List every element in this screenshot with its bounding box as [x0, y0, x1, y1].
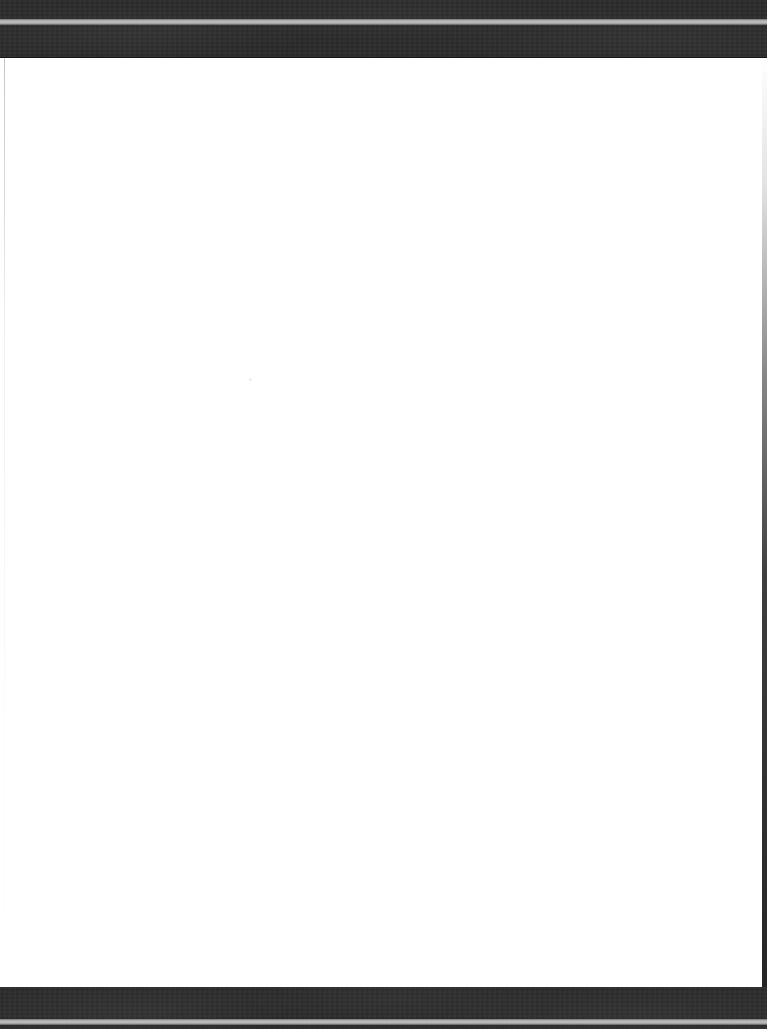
page-body: [0, 58, 767, 987]
left-page-edge-line: [4, 58, 5, 987]
scan-dust-speck: [249, 378, 252, 381]
scanned-page: top scanner border bottom scanner border: [0, 0, 767, 1029]
bottom-band-light-stripe: [0, 1019, 767, 1025]
right-page-edge-shadow: [762, 58, 767, 987]
top-band-noise-texture: [0, 0, 767, 58]
top-band-light-stripe: [0, 19, 767, 25]
top-scanner-band: top scanner border: [0, 0, 767, 58]
